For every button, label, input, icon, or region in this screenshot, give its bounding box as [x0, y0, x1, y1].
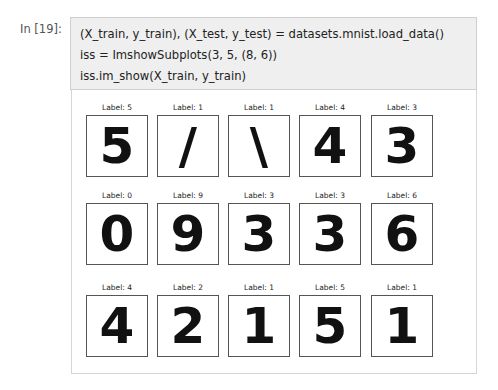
digit-image: 0 — [86, 203, 148, 265]
digit-glyph: 2 — [171, 301, 206, 351]
subplot: Label: 3 3 — [228, 191, 290, 265]
digit-glyph: 1 — [385, 301, 420, 351]
digit-glyph: 5 — [313, 301, 348, 351]
subplot-title: Label: 1 — [228, 283, 290, 293]
subplot: Label: 5 5 — [86, 103, 148, 177]
subplot-title: Label: 3 — [299, 191, 361, 201]
subplot: Label: 5 5 — [299, 283, 361, 357]
digit-glyph: / — [179, 121, 197, 171]
digit-image: 3 — [371, 115, 433, 177]
subplot: Label: 1 / — [157, 103, 219, 177]
subplot-title: Label: 4 — [299, 103, 361, 113]
digit-glyph: 6 — [385, 209, 420, 259]
subplot: Label: 3 3 — [299, 191, 361, 265]
subplot: Label: 4 4 — [299, 103, 361, 177]
digit-image: 5 — [299, 295, 361, 357]
digit-image: 4 — [86, 295, 148, 357]
digit-glyph: 1 — [242, 301, 277, 351]
subplot: Label: 2 2 — [157, 283, 219, 357]
digit-glyph: \ — [250, 121, 268, 171]
digit-glyph: 3 — [385, 121, 420, 171]
digit-image: 6 — [371, 203, 433, 265]
subplot: Label: 4 4 — [86, 283, 148, 357]
code-line: iss.im_show(X_train, y_train) — [80, 66, 476, 87]
digit-image: \ — [228, 115, 290, 177]
subplot-title: Label: 5 — [86, 103, 148, 113]
code-line: iss = ImshowSubplots(3, 5, (8, 6)) — [80, 45, 476, 66]
subplot-title: Label: 2 — [157, 283, 219, 293]
digit-image: 9 — [157, 203, 219, 265]
subplot: Label: 3 3 — [371, 103, 433, 177]
digit-image: 4 — [299, 115, 361, 177]
subplot: Label: 1 1 — [228, 283, 290, 357]
subplot-title: Label: 1 — [371, 283, 433, 293]
digit-glyph: 3 — [313, 209, 348, 259]
digit-image: / — [157, 115, 219, 177]
digit-glyph: 4 — [313, 121, 348, 171]
digit-glyph: 4 — [100, 301, 135, 351]
subplot-title: Label: 1 — [157, 103, 219, 113]
digit-glyph: 5 — [100, 121, 135, 171]
subplot-title: Label: 5 — [299, 283, 361, 293]
cell-output-area: Label: 5 5 Label: 1 / Label: 1 \ Label: … — [71, 90, 477, 374]
subplot: Label: 1 \ — [228, 103, 290, 177]
subplot-title: Label: 0 — [86, 191, 148, 201]
digit-image: 3 — [228, 203, 290, 265]
subplot-title: Label: 1 — [228, 103, 290, 113]
digit-image: 1 — [228, 295, 290, 357]
subplot-title: Label: 3 — [371, 103, 433, 113]
digit-image: 3 — [299, 203, 361, 265]
digit-image: 1 — [371, 295, 433, 357]
subplot-title: Label: 9 — [157, 191, 219, 201]
code-cell-input[interactable]: (X_train, y_train), (X_test, y_test) = d… — [70, 17, 477, 90]
subplot-title: Label: 3 — [228, 191, 290, 201]
subplot: Label: 1 1 — [371, 283, 433, 357]
subplot: Label: 0 0 — [86, 191, 148, 265]
subplot-title: Label: 4 — [86, 283, 148, 293]
subplot: Label: 9 9 — [157, 191, 219, 265]
cell-prompt: In [19]: — [20, 22, 62, 36]
digit-image: 2 — [157, 295, 219, 357]
subplot: Label: 6 6 — [371, 191, 433, 265]
digit-glyph: 3 — [242, 209, 277, 259]
digit-glyph: 9 — [171, 209, 206, 259]
code-line: (X_train, y_train), (X_test, y_test) = d… — [80, 24, 476, 45]
digit-image: 5 — [86, 115, 148, 177]
subplot-title: Label: 6 — [371, 191, 433, 201]
digit-glyph: 0 — [100, 209, 135, 259]
